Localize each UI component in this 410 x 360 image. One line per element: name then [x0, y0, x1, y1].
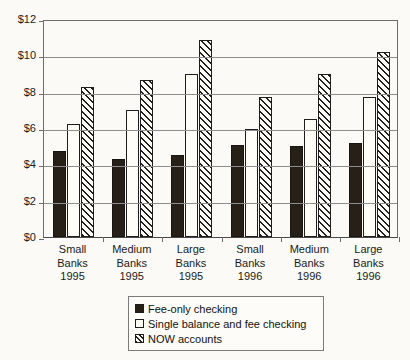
- legend-item: NOW accounts: [135, 331, 317, 346]
- y-axis-tick-label: $6: [24, 123, 36, 134]
- bar: [67, 124, 80, 237]
- bar: [318, 74, 331, 238]
- bar: [53, 151, 66, 237]
- x-axis-category-label-line: Medium: [280, 243, 339, 257]
- x-axis-category-label: MediumBanks1995: [102, 243, 161, 284]
- x-axis-category-label-line: 1995: [161, 270, 220, 284]
- x-axis-category-label-line: Medium: [102, 243, 161, 257]
- x-axis-tick-mark: [103, 237, 104, 242]
- bar: [112, 159, 125, 237]
- x-axis-category-label-line: Small: [43, 243, 102, 257]
- x-axis-category-label-line: Banks: [102, 257, 161, 271]
- bar: [199, 40, 212, 237]
- chart-legend: Fee-only checkingSingle balance and fee …: [128, 296, 324, 351]
- legend-item-label: Single balance and fee checking: [148, 318, 306, 330]
- bar: [140, 80, 153, 237]
- bar: [349, 143, 362, 237]
- x-axis-tick-mark: [222, 237, 223, 242]
- y-axis-tick-label: $4: [24, 159, 36, 170]
- y-axis-tick-mark: [39, 239, 44, 240]
- x-axis-category-label-line: Large: [161, 243, 220, 257]
- x-axis-category-label-line: 1996: [280, 270, 339, 284]
- gridline: [44, 94, 397, 95]
- legend-swatch-icon: [135, 319, 144, 328]
- bars-layer: [44, 21, 397, 237]
- y-axis-labels: $0$2$4$6$8$10$12: [0, 0, 40, 360]
- x-axis-tick-mark: [281, 237, 282, 242]
- bar: [304, 119, 317, 237]
- x-axis-category-label-line: Banks: [339, 257, 398, 271]
- x-axis-category-label-line: 1995: [102, 270, 161, 284]
- x-axis-tick-mark: [340, 237, 341, 242]
- bar: [377, 52, 390, 237]
- y-axis-tick-label: $0: [24, 232, 36, 243]
- y-axis-tick-label: $2: [24, 196, 36, 207]
- bar: [185, 74, 198, 238]
- x-axis-category-label-line: Small: [221, 243, 280, 257]
- legend-item: Fee-only checking: [135, 301, 317, 316]
- x-axis-category-label-line: Banks: [280, 257, 339, 271]
- bar-chart: $0$2$4$6$8$10$12 SmallBanks1995MediumBan…: [0, 0, 410, 360]
- gridline: [44, 203, 397, 204]
- bar: [126, 110, 139, 237]
- x-axis-category-label-line: 1995: [43, 270, 102, 284]
- bar: [231, 145, 244, 237]
- x-axis-category-label-line: 1996: [339, 270, 398, 284]
- y-axis-tick-label: $12: [18, 14, 36, 25]
- x-axis-category-label-line: Banks: [221, 257, 280, 271]
- x-axis-category-label-line: Banks: [161, 257, 220, 271]
- x-axis-category-label-line: Large: [339, 243, 398, 257]
- legend-item-label: NOW accounts: [148, 333, 222, 345]
- legend-item: Single balance and fee checking: [135, 316, 317, 331]
- plot-area: [43, 20, 398, 238]
- x-axis-category-label-line: 1996: [221, 270, 280, 284]
- gridline: [44, 166, 397, 167]
- x-axis-category-label: MediumBanks1996: [280, 243, 339, 284]
- y-axis-tick-mark: [39, 21, 44, 22]
- bar: [290, 146, 303, 237]
- y-axis-tick-label: $8: [24, 87, 36, 98]
- x-axis-category-label: LargeBanks1996: [339, 243, 398, 284]
- x-axis-tick-mark: [162, 237, 163, 242]
- bar: [245, 129, 258, 237]
- legend-swatch-icon: [135, 304, 144, 313]
- bar: [171, 155, 184, 237]
- x-axis-category-label: SmallBanks1995: [43, 243, 102, 284]
- gridline: [44, 57, 397, 58]
- x-axis-category-label-line: Banks: [43, 257, 102, 271]
- legend-item-label: Fee-only checking: [148, 303, 237, 315]
- y-axis-tick-label: $10: [18, 50, 36, 61]
- x-axis-category-labels: SmallBanks1995MediumBanks1995LargeBanks1…: [43, 243, 398, 291]
- x-axis-category-label: LargeBanks1995: [161, 243, 220, 284]
- x-axis-tick-mark: [399, 237, 400, 242]
- x-axis-category-label: SmallBanks1996: [221, 243, 280, 284]
- legend-swatch-icon: [135, 334, 144, 343]
- bar: [81, 87, 94, 237]
- gridline: [44, 130, 397, 131]
